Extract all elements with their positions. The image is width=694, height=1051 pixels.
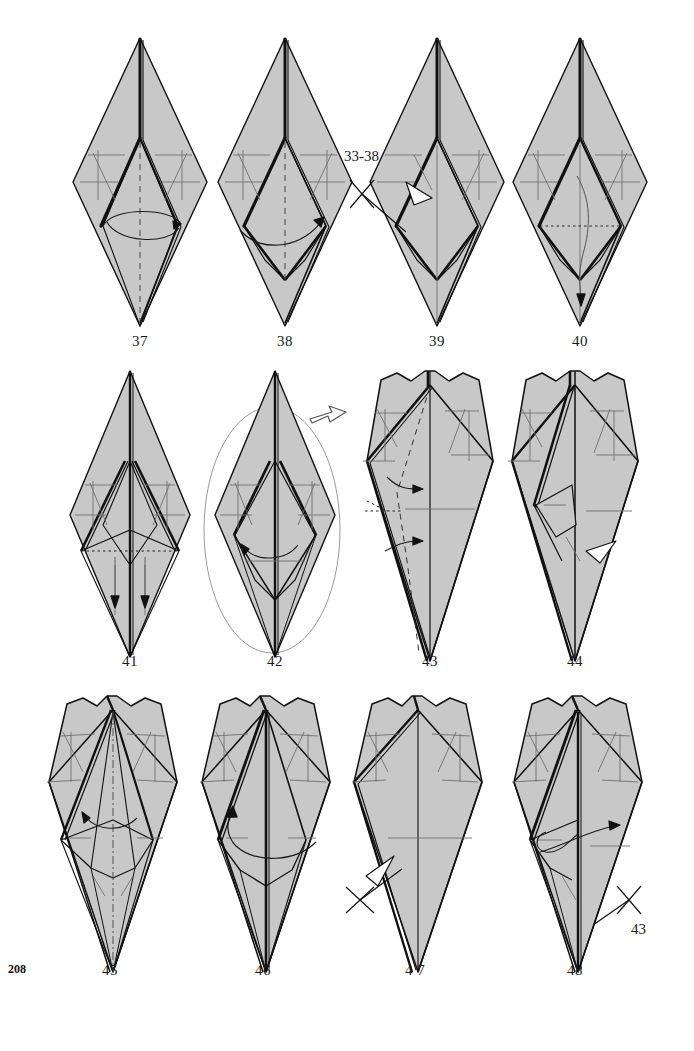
page-number: 208 (8, 962, 26, 977)
figure-46-drawing (178, 690, 348, 990)
figure-44-drawing (490, 365, 660, 685)
figure-44: 44 (490, 365, 660, 685)
figure-47-label: 4 7 (330, 962, 500, 979)
figure-row-2: 41 (0, 365, 694, 685)
figure-40: 40 (495, 30, 665, 360)
figure-44-label: 44 (490, 653, 660, 670)
figure-46: 46 (178, 690, 348, 990)
figure-48-drawing (490, 690, 660, 990)
figure-42: 42 (190, 365, 360, 685)
figure-42-label: 42 (190, 653, 360, 670)
figure-48: 48 (490, 690, 660, 990)
figure-row-3: 45 (0, 690, 694, 990)
figure-40-drawing (495, 30, 665, 360)
figure-row-1: 37 (0, 30, 694, 360)
repeat-cross-arrow-icon-33-38 (340, 170, 430, 250)
figure-47: 4 7 (330, 690, 500, 990)
figure-38-label: 38 (200, 333, 370, 350)
figure-45-drawing (25, 690, 195, 990)
figure-48-label: 48 (490, 962, 660, 979)
figure-47-drawing (330, 690, 500, 990)
repeat-cross-arrow-icon-43-fig47 (340, 855, 440, 935)
repeat-steps-33-38-label: 33-38 (344, 148, 379, 165)
figure-45: 45 (25, 690, 195, 990)
figure-42-drawing (190, 365, 360, 685)
figure-45-label: 45 (25, 962, 195, 979)
figure-46-label: 46 (178, 962, 348, 979)
diagram-page: 37 (0, 0, 694, 1051)
figure-40-label: 40 (495, 333, 665, 350)
